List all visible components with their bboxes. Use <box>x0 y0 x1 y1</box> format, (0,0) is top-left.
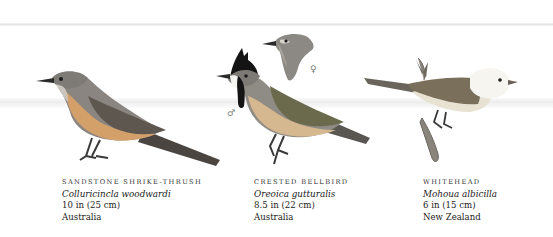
common-name: Crested Bellbird <box>254 177 348 189</box>
common-name: Whitehead <box>423 177 497 189</box>
shrike-thrush-illustration <box>34 68 224 170</box>
male-symbol: ♂ <box>227 108 235 118</box>
size: 8.5 in (22 cm) <box>254 200 348 212</box>
bellbird-female-head-illustration <box>262 32 318 84</box>
size: 10 in (25 cm) <box>62 200 202 212</box>
latin-name: Oreoica gutturalis <box>254 189 348 201</box>
size: 6 in (15 cm) <box>423 200 497 212</box>
latin-name: Colluricincla woodwardi <box>62 189 202 201</box>
caption-shrike-thrush: Sandstone Shrike-thrush Colluricincla wo… <box>62 177 202 223</box>
range: New Zealand <box>423 212 497 224</box>
top-rule <box>0 23 553 26</box>
caption-whitehead: Whitehead Mohoua albicilla 6 in (15 cm) … <box>423 177 497 223</box>
latin-name: Mohoua albicilla <box>423 189 497 201</box>
range: Australia <box>62 212 202 224</box>
whitehead-illustration <box>362 58 522 166</box>
common-name: Sandstone Shrike-thrush <box>62 177 202 189</box>
caption-crested-bellbird: Crested Bellbird Oreoica gutturalis 8.5 … <box>254 177 348 223</box>
female-symbol: ♀ <box>310 64 317 74</box>
range: Australia <box>254 212 348 224</box>
